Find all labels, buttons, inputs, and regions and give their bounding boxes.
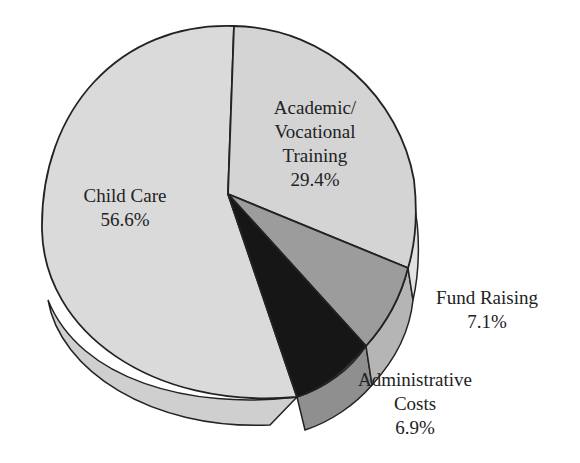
label-academic-value: 29.4% bbox=[250, 168, 380, 192]
label-academic-line3: Training bbox=[250, 144, 380, 168]
label-fund-raising: Fund Raising 7.1% bbox=[412, 286, 562, 334]
label-child-care: Child Care 56.6% bbox=[60, 184, 190, 232]
label-admin-line1: Administrative bbox=[335, 368, 495, 392]
label-child-line1: Child Care bbox=[60, 184, 190, 208]
label-academic-line1: Academic/ bbox=[250, 96, 380, 120]
label-administrative-costs: Administrative Costs 6.9% bbox=[335, 368, 495, 440]
label-academic-line2: Vocational bbox=[250, 120, 380, 144]
label-admin-line2: Costs bbox=[335, 392, 495, 416]
label-admin-value: 6.9% bbox=[335, 416, 495, 440]
label-child-value: 56.6% bbox=[60, 208, 190, 232]
label-fund-value: 7.1% bbox=[412, 310, 562, 334]
label-fund-line1: Fund Raising bbox=[412, 286, 562, 310]
label-academic: Academic/ Vocational Training 29.4% bbox=[250, 96, 380, 192]
